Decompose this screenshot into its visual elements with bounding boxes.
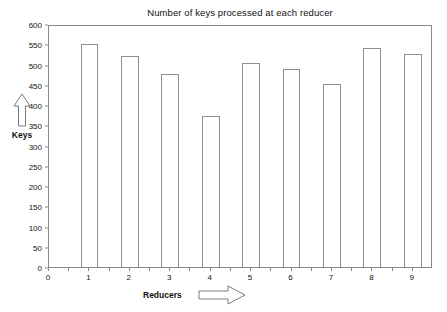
x-minor-tick-mark xyxy=(270,268,271,271)
x-minor-tick-mark xyxy=(169,268,170,271)
x-axis-label-group: Reducers xyxy=(48,285,432,305)
y-tick-label: 200 xyxy=(29,183,42,192)
x-tick-label: 5 xyxy=(248,273,252,282)
y-tick-label: 600 xyxy=(29,21,42,30)
x-minor-tick-mark xyxy=(351,268,352,271)
y-tick-label: 100 xyxy=(29,223,42,232)
y-tick-label: 500 xyxy=(29,61,42,70)
bar-reducer-2 xyxy=(121,56,139,267)
bar-reducer-6 xyxy=(283,69,301,267)
y-tick-label: 50 xyxy=(33,243,42,252)
y-tick-label: 0 xyxy=(38,264,42,273)
x-minor-tick-mark xyxy=(129,268,130,271)
up-arrow-icon xyxy=(13,93,31,127)
x-minor-tick-mark xyxy=(230,268,231,271)
x-tick-label: 3 xyxy=(167,273,171,282)
x-minor-tick-mark xyxy=(291,268,292,271)
bar-reducer-8 xyxy=(363,48,381,268)
y-tick-label: 300 xyxy=(29,142,42,151)
x-axis: 0123456789 xyxy=(48,268,432,286)
bar-reducer-9 xyxy=(404,54,422,267)
x-minor-tick-mark xyxy=(371,268,372,271)
x-minor-tick-mark xyxy=(149,268,150,271)
x-tick-label: 6 xyxy=(288,273,292,282)
y-tick-label: 150 xyxy=(29,203,42,212)
x-minor-tick-mark xyxy=(311,268,312,271)
y-tick-label: 250 xyxy=(29,162,42,171)
x-tick-label: 0 xyxy=(46,273,50,282)
bar-reducer-5 xyxy=(242,63,260,267)
bar-chart-figure: Number of keys processed at each reducer… xyxy=(0,0,447,312)
bar-reducer-4 xyxy=(202,116,220,267)
y-axis-label-group: Keys xyxy=(2,93,42,140)
x-minor-tick-mark xyxy=(109,268,110,271)
bar-reducer-7 xyxy=(323,84,341,267)
y-axis-label: Keys xyxy=(2,130,42,140)
x-minor-tick-mark xyxy=(331,268,332,271)
x-tick-label: 7 xyxy=(329,273,333,282)
bar-reducer-1 xyxy=(81,44,99,267)
x-tick-label: 1 xyxy=(86,273,90,282)
y-tick-label: 550 xyxy=(29,41,42,50)
x-minor-tick-mark xyxy=(210,268,211,271)
right-arrow-icon xyxy=(198,285,246,305)
bar-reducer-3 xyxy=(161,74,179,267)
y-axis: 050100150200250300350400450500550600 xyxy=(0,25,48,268)
x-minor-tick-mark xyxy=(189,268,190,271)
x-tick-label: 4 xyxy=(207,273,211,282)
y-tick-label: 450 xyxy=(29,81,42,90)
x-tick-label: 9 xyxy=(410,273,414,282)
x-minor-tick-mark xyxy=(412,268,413,271)
plot-area xyxy=(49,26,431,267)
x-axis-label: Reducers xyxy=(143,290,182,300)
x-minor-tick-mark xyxy=(392,268,393,271)
x-tick-label: 2 xyxy=(127,273,131,282)
x-tick-label: 8 xyxy=(369,273,373,282)
chart-title: Number of keys processed at each reducer xyxy=(48,7,432,18)
x-minor-tick-mark xyxy=(88,268,89,271)
x-tick-mark xyxy=(48,268,49,271)
x-minor-tick-mark xyxy=(250,268,251,271)
x-minor-tick-mark xyxy=(68,268,69,271)
plot-frame xyxy=(48,25,432,268)
